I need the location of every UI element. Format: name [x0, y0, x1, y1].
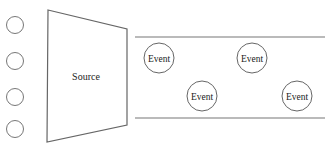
event-label: Event	[148, 54, 171, 64]
diagram-canvas: Source Event Event Event Event	[0, 0, 331, 151]
source-node: Source	[47, 10, 127, 142]
event-label: Event	[191, 92, 214, 102]
source-label: Source	[72, 71, 100, 82]
input-circle	[7, 89, 24, 106]
event-node: Event	[282, 81, 312, 111]
input-circle	[7, 53, 24, 70]
input-circles	[7, 17, 24, 138]
events: Event Event Event Event	[144, 43, 312, 111]
event-label: Event	[286, 92, 309, 102]
event-node: Event	[187, 81, 217, 111]
event-label: Event	[241, 54, 264, 64]
diagram-svg: Source Event Event Event Event	[0, 0, 331, 151]
input-circle	[7, 17, 24, 34]
event-node: Event	[237, 43, 267, 73]
event-node: Event	[144, 43, 174, 73]
input-circle	[7, 121, 24, 138]
